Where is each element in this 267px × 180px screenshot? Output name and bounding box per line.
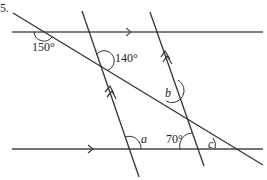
angle-label-b: b [165, 86, 171, 100]
angle-label-a: a [141, 132, 147, 146]
question-number: 5. [0, 1, 9, 15]
angle-label-70: 70° [166, 132, 183, 146]
bottom-parallel-line [12, 145, 263, 153]
angle-label-140: 140° [115, 51, 138, 65]
angle-arc-c [213, 138, 216, 149]
geometry-diagram: 5. 150° 140° b a 70° c [0, 0, 267, 180]
angle-label-c: c [208, 137, 214, 151]
left-slanted-line [82, 11, 139, 177]
angle-label-150: 150° [32, 40, 55, 54]
diagonal-transversal [13, 13, 263, 165]
